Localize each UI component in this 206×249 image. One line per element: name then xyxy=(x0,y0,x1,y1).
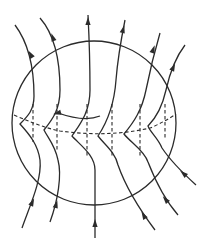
field-line-5 xyxy=(124,33,178,215)
arrow-bot-3-icon xyxy=(92,219,97,227)
arrow-top-6-icon xyxy=(169,62,177,71)
field-line-2 xyxy=(40,18,60,222)
dashed-vertical-guides xyxy=(33,104,165,157)
field-line-6 xyxy=(148,45,196,185)
sphere-field-diagram xyxy=(0,0,206,249)
arrow-top-3-icon xyxy=(85,17,90,25)
field-line-1 xyxy=(15,25,40,228)
center-deflection-arrow xyxy=(58,113,100,118)
